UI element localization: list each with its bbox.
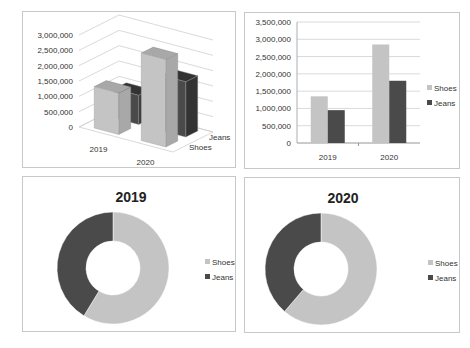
bar-shoes-2019 [311, 96, 328, 143]
y-tick-label: 3,000,000 [255, 35, 291, 44]
y-tick-label: 0 [287, 139, 292, 148]
bar-shoes-2020 [141, 53, 165, 147]
legend-label-shoes: Shoes [212, 258, 235, 267]
legend-label-shoes: Shoes [435, 259, 458, 268]
y-tick-label: 500,000 [44, 108, 73, 117]
x-tick-label: 2019 [319, 153, 337, 162]
bar-jeans-2019 [328, 110, 345, 143]
chart-3d-column: 0500,0001,000,0001,500,0002,000,0002,500… [22, 11, 236, 168]
legend-label-jeans: Jeans [434, 99, 455, 108]
y-tick-label: 2,500,000 [255, 53, 291, 62]
y-tick-label: 1,000,000 [255, 104, 291, 113]
bar-side [119, 87, 131, 134]
y-tick-label: 2,000,000 [37, 62, 73, 71]
y-tick-label: 3,500,000 [255, 18, 291, 27]
chart-donut-2020-plot: 2020ShoesJeans [245, 178, 461, 334]
chart-3d-column-plot: 0500,0001,000,0001,500,0002,000,0002,500… [23, 12, 237, 169]
bar-side [166, 54, 178, 147]
chart-donut-2019: 2019ShoesJeans [22, 176, 236, 332]
depth-axis-label: Shoes [189, 143, 212, 152]
y-tick-label: 2,000,000 [255, 70, 291, 79]
chart-title: 2019 [115, 189, 146, 205]
bar-jeans-2020 [389, 81, 406, 143]
bar-shoes-2020 [372, 44, 389, 143]
bar-shoes-2019 [94, 87, 118, 135]
y-tick-label: 0 [69, 123, 74, 132]
legend-swatch-jeans [205, 274, 210, 279]
x-tick-label: 2020 [137, 158, 155, 167]
y-tick-label: 3,000,000 [37, 31, 73, 40]
chart-donut-2020: 2020ShoesJeans [244, 177, 460, 333]
legend-swatch-jeans [428, 275, 433, 280]
x-tick-label: 2019 [90, 145, 108, 154]
y-tick-label: 1,000,000 [37, 92, 73, 101]
x-tick-label: 2020 [380, 153, 398, 162]
legend-label-jeans: Jeans [212, 273, 233, 282]
chart-2d-column: 0500,0001,000,0001,500,0002,000,0002,500… [244, 12, 460, 169]
bar-side [186, 76, 198, 137]
depth-axis-label: Jeans [209, 133, 230, 142]
chart-2d-column-plot: 0500,0001,000,0001,500,0002,000,0002,500… [245, 13, 461, 170]
gridline [79, 15, 213, 40]
legend-label-shoes: Shoes [434, 84, 457, 93]
y-tick-label: 1,500,000 [255, 87, 291, 96]
legend-swatch-shoes [427, 85, 432, 90]
chart-donut-2019-plot: 2019ShoesJeans [23, 177, 237, 333]
y-tick-label: 2,500,000 [37, 46, 73, 55]
y-tick-label: 500,000 [262, 122, 291, 131]
legend-swatch-shoes [205, 259, 210, 264]
legend-label-jeans: Jeans [435, 274, 456, 283]
legend-swatch-shoes [428, 260, 433, 265]
legend-swatch-jeans [427, 100, 432, 105]
chart-title: 2020 [327, 190, 358, 206]
y-tick-label: 1,500,000 [37, 77, 73, 86]
